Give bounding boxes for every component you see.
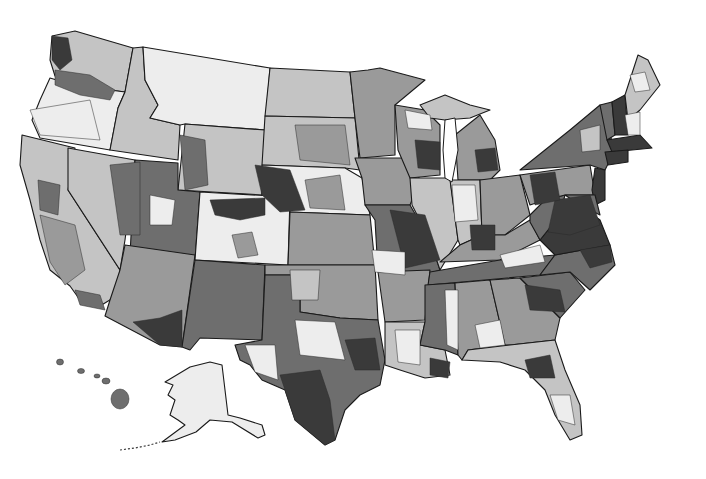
state-connecticut <box>605 150 628 165</box>
hawaii-island-maui <box>102 378 110 384</box>
region <box>372 250 405 275</box>
region <box>475 148 498 172</box>
hawaii-island-molokai <box>94 374 100 378</box>
region <box>625 112 640 135</box>
state-kansas <box>288 212 375 265</box>
region <box>530 172 560 205</box>
region <box>395 330 420 365</box>
state-new-mexico <box>182 260 265 350</box>
region <box>475 320 505 348</box>
region <box>180 135 208 190</box>
state-montana <box>143 47 270 130</box>
hawaii-inset <box>57 359 130 409</box>
state-florida <box>462 340 582 440</box>
region <box>290 270 320 300</box>
region <box>415 140 440 170</box>
state-new-york <box>520 105 615 170</box>
region <box>452 185 478 222</box>
aleutian-islands <box>120 442 160 450</box>
us-choropleth-map <box>0 0 706 479</box>
hawaii-island-big-island <box>111 389 129 409</box>
hawaii-island-oahu <box>78 369 85 374</box>
region <box>295 125 350 165</box>
alaska-inset <box>120 362 265 450</box>
region <box>445 290 458 350</box>
states-layer <box>20 31 660 445</box>
region <box>305 175 345 210</box>
region <box>470 225 495 250</box>
state-alaska <box>162 362 265 442</box>
state-massachusetts <box>607 135 652 152</box>
lake-michigan <box>443 118 458 182</box>
region <box>38 180 60 215</box>
region <box>150 195 175 225</box>
hawaii-island-kauai <box>57 359 64 365</box>
state-north-dakota <box>265 68 355 118</box>
region <box>580 125 600 152</box>
state-arkansas <box>378 270 430 322</box>
map-canvas <box>0 0 706 479</box>
